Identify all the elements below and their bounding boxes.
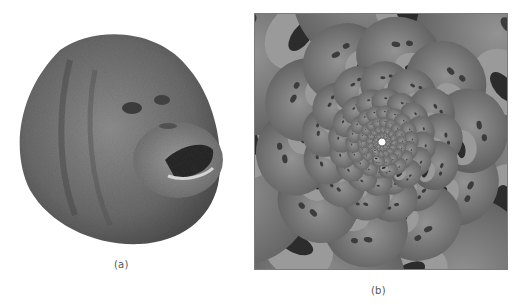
- panel-b-spiral-frame: [254, 13, 508, 270]
- panel-a-orangutan-face: (a): [0, 0, 250, 305]
- spiral-pattern: [255, 14, 508, 270]
- caption-b: (b): [371, 285, 386, 296]
- caption-a: (a): [114, 259, 129, 270]
- spiral-faces-image: [255, 14, 508, 270]
